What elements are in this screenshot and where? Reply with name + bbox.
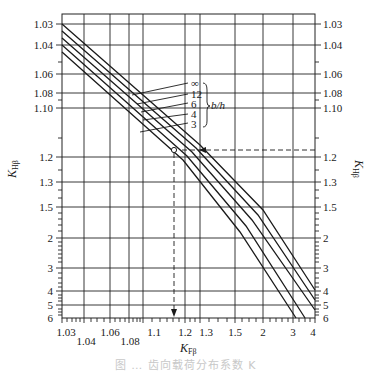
y-label: 5 bbox=[323, 299, 329, 311]
x-label: 3 bbox=[290, 326, 296, 338]
left-y-labels: 1.03 1.04 1.06 1.08 1.10 1.2 1.3 1.5 2 3… bbox=[34, 18, 54, 324]
curves bbox=[62, 24, 315, 318]
y-label: 1.5 bbox=[39, 201, 53, 213]
y-label: 1.03 bbox=[34, 18, 54, 30]
x-label: 1.08 bbox=[120, 335, 140, 347]
y-label: 1.2 bbox=[39, 151, 53, 163]
y-label: 1.2 bbox=[323, 151, 337, 163]
x-label: 1.3 bbox=[199, 326, 213, 338]
figure-caption: 图 … 齿向载荷分布系数 K bbox=[0, 356, 371, 372]
legend-brace-icon bbox=[203, 83, 210, 127]
left-y-axis-title: KHβ bbox=[5, 160, 20, 179]
y-label: 5 bbox=[48, 299, 54, 311]
x-label: 1.5 bbox=[228, 326, 242, 338]
y-label: 6 bbox=[48, 312, 54, 324]
curve-3 bbox=[62, 52, 296, 318]
y-label: 3 bbox=[323, 262, 329, 274]
y-label: 1.06 bbox=[323, 68, 343, 80]
y-label: 2 bbox=[48, 232, 54, 244]
y-label: 1.04 bbox=[34, 39, 54, 51]
x-axis-title: KFβ bbox=[179, 341, 197, 356]
y-label: 1.04 bbox=[323, 39, 343, 51]
y-label: 4 bbox=[48, 285, 54, 297]
curve-4 bbox=[62, 45, 305, 318]
y-label: 2 bbox=[323, 232, 329, 244]
y-label: 1.03 bbox=[323, 18, 343, 30]
y-label: 4 bbox=[323, 285, 329, 297]
right-y-labels: 1.03 1.04 1.06 1.08 1.10 1.2 1.3 1.5 2 3… bbox=[323, 18, 343, 324]
right-axis-ticks bbox=[315, 24, 321, 315]
x-label: 1.04 bbox=[76, 335, 96, 347]
left-y-axis-title-sub: Hβ bbox=[11, 160, 20, 170]
y-label: 1.10 bbox=[323, 102, 343, 114]
right-y-axis-title: KHβ bbox=[351, 159, 366, 178]
legend-title: b/h bbox=[211, 99, 226, 111]
y-label: 1.06 bbox=[34, 68, 54, 80]
chart: ∞ 12 6 4 3 b/h 1.03 1.04 1.06 1.08 1.10 … bbox=[0, 0, 371, 356]
legend: ∞ 12 6 4 3 b/h bbox=[191, 77, 226, 130]
x-label: 1.1 bbox=[147, 326, 161, 338]
y-label: 3 bbox=[48, 262, 54, 274]
x-label: 1.06 bbox=[100, 326, 120, 338]
y-label: 1.5 bbox=[323, 201, 337, 213]
horizontal-gridlines bbox=[62, 24, 315, 305]
right-y-axis-title-sub: Hβ bbox=[351, 168, 360, 178]
left-axis-ticks bbox=[56, 24, 62, 315]
y-label: 1.08 bbox=[323, 87, 343, 99]
arrow-down-icon bbox=[171, 309, 177, 317]
y-label: 1.3 bbox=[323, 176, 337, 188]
x-label: 4 bbox=[310, 326, 316, 338]
example-path bbox=[174, 150, 315, 310]
legend-label-3: 3 bbox=[191, 118, 197, 130]
y-label: 1.08 bbox=[34, 87, 54, 99]
y-label: 1.10 bbox=[34, 102, 54, 114]
x-label: 1.03 bbox=[56, 326, 76, 338]
x-label: 2 bbox=[260, 326, 266, 338]
x-axis-title-sub: Fβ bbox=[188, 347, 197, 356]
bottom-axis-ticks bbox=[62, 318, 315, 323]
x-label: 1.2 bbox=[178, 326, 192, 338]
example-marker bbox=[171, 147, 176, 152]
y-label: 6 bbox=[323, 312, 329, 324]
y-label: 1.3 bbox=[39, 176, 53, 188]
